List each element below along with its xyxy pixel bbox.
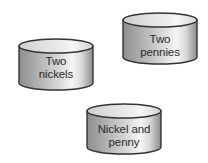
container-label: Two nickels [18, 55, 94, 81]
container-label: Two pennies [122, 33, 198, 59]
container-label: Nickel and penny [86, 123, 162, 149]
container-two-pennies: Two pennies [122, 12, 198, 65]
container-two-nickels: Two nickels [18, 38, 94, 91]
container-nickel-and-penny: Nickel and penny [86, 103, 162, 155]
